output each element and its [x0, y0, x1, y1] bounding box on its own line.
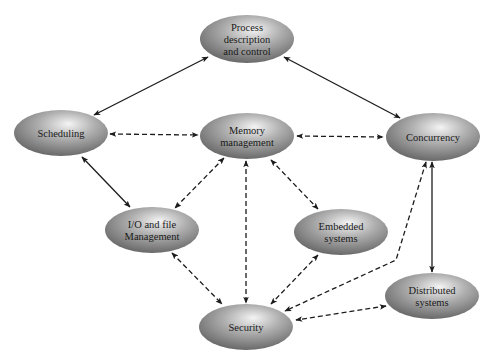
edge-io-security — [172, 253, 222, 304]
edge-scheduling-memory — [110, 134, 198, 135]
node-label: I/O and file — [128, 219, 177, 230]
edge-embedded-security — [271, 255, 318, 304]
edge-distributed-security — [296, 306, 386, 320]
node-scheduling: Scheduling — [14, 110, 108, 156]
edge-memory-embedded — [271, 160, 318, 209]
node-label: Process — [231, 22, 263, 33]
node-concurrency: Concurrency — [386, 113, 480, 161]
node-label: systems — [324, 233, 357, 244]
node-label: Embedded — [319, 221, 365, 232]
node-label: Scheduling — [37, 128, 85, 139]
edge-process-scheduling — [94, 57, 208, 115]
node-memory: Memorymanagement — [200, 113, 294, 159]
node-label: Distributed — [408, 285, 456, 296]
node-label: Concurrency — [406, 132, 461, 143]
node-embedded: Embeddedsystems — [294, 209, 388, 255]
node-security: Security — [199, 304, 293, 350]
node-label: Memory — [229, 125, 266, 136]
node-label: Security — [229, 322, 265, 333]
node-io: I/O and fileManagement — [105, 207, 199, 253]
os-concepts-diagram: Processdescriptionand controlSchedulingM… — [0, 0, 495, 362]
edge-memory-io — [175, 158, 224, 208]
edge-scheduling-io — [82, 157, 130, 207]
edges-layer — [82, 57, 432, 320]
node-label: Management — [125, 231, 180, 242]
node-label: management — [220, 137, 274, 148]
node-distributed: Distributedsystems — [385, 273, 479, 319]
node-process: Processdescriptionand control — [200, 15, 294, 63]
edge-memory-concurrency — [297, 136, 383, 137]
node-label: description — [224, 34, 271, 45]
edge-process-concurrency — [284, 57, 400, 118]
node-label: and control — [223, 46, 271, 57]
node-label: systems — [415, 297, 448, 308]
nodes-layer: Processdescriptionand controlSchedulingM… — [14, 15, 480, 350]
